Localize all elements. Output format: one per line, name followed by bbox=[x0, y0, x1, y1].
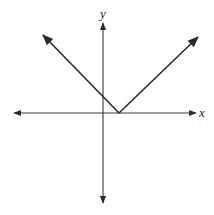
graph: x y bbox=[0, 0, 214, 215]
x-axis-label: x bbox=[198, 105, 205, 120]
y-axis-label: y bbox=[98, 6, 106, 21]
right-branch-line bbox=[119, 37, 198, 113]
left-branch-line bbox=[43, 35, 119, 113]
